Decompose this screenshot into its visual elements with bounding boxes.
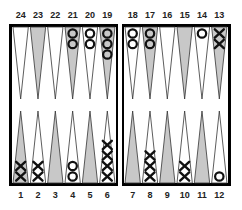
- point-10[interactable]: [177, 111, 192, 183]
- point-5[interactable]: [82, 111, 97, 183]
- point-9[interactable]: [160, 111, 175, 183]
- point-14[interactable]: [194, 27, 209, 99]
- point-6[interactable]: [100, 111, 115, 183]
- point-4[interactable]: [65, 111, 80, 183]
- board-points: [0, 0, 242, 210]
- point-17[interactable]: [142, 27, 157, 99]
- point-20[interactable]: [82, 27, 97, 99]
- point-8[interactable]: [142, 111, 157, 183]
- point-12[interactable]: [212, 111, 227, 183]
- point-7[interactable]: [125, 111, 140, 183]
- point-11[interactable]: [194, 111, 209, 183]
- point-21[interactable]: [65, 27, 80, 99]
- point-24[interactable]: [13, 27, 28, 99]
- point-23[interactable]: [30, 27, 45, 99]
- point-13[interactable]: [212, 27, 227, 99]
- point-16[interactable]: [160, 27, 175, 99]
- point-2[interactable]: [30, 111, 45, 183]
- point-19[interactable]: [100, 27, 115, 99]
- point-1[interactable]: [13, 111, 28, 183]
- point-3[interactable]: [48, 111, 63, 183]
- point-22[interactable]: [48, 27, 63, 99]
- point-15[interactable]: [177, 27, 192, 99]
- point-18[interactable]: [125, 27, 140, 99]
